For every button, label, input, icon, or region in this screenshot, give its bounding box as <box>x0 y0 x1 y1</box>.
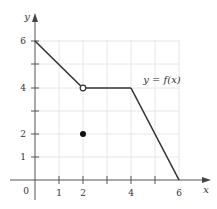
function-graph: 0 1 2 4 6 1 2 4 6 x y y = f(x) <box>0 0 217 209</box>
filled-dot-marker <box>80 131 86 137</box>
grid <box>35 40 179 180</box>
y-tick-label-6: 6 <box>20 36 26 46</box>
x-tick-label-2: 2 <box>80 188 86 198</box>
y-tick-label-2: 2 <box>20 129 26 139</box>
x-axis-arrow-icon <box>202 177 211 183</box>
function-label: y = f(x) <box>142 74 181 85</box>
origin-label: 0 <box>23 186 29 196</box>
x-axis-label: x <box>203 184 209 195</box>
open-circle-marker <box>80 85 86 91</box>
x-axis <box>10 177 211 183</box>
y-axis-arrow-icon <box>32 13 38 22</box>
x-tick-label-6: 6 <box>176 188 182 198</box>
x-tick-label-1: 1 <box>56 188 62 198</box>
x-tick-label-4: 4 <box>128 188 134 198</box>
y-axis-label: y <box>23 11 30 22</box>
y-tick-label-1: 1 <box>20 152 26 162</box>
y-tick-label-4: 4 <box>20 83 26 93</box>
